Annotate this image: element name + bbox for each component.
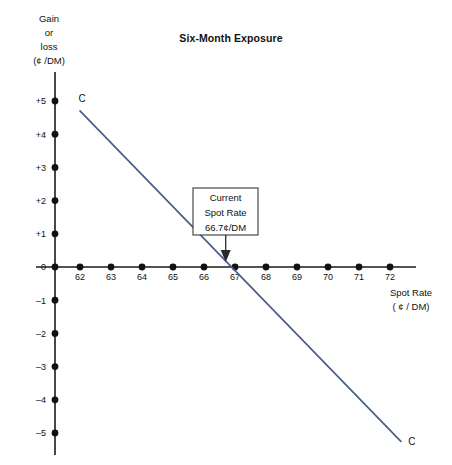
x-tick-dot <box>170 264 177 271</box>
x-tick-label: 68 <box>261 272 271 282</box>
x-tick-dot <box>325 264 332 271</box>
y-axis-title-line-1: Gain <box>39 13 59 24</box>
x-tick-label: 63 <box>106 272 116 282</box>
y-tick-dot <box>52 396 59 403</box>
y-tick-dot <box>52 131 59 138</box>
y-tick-dot <box>52 164 59 171</box>
annotation-line-1: Current <box>210 192 242 203</box>
annotation-current-spot-rate: Current Spot Rate 66.7¢/DM <box>193 188 258 262</box>
y-tick-label: 0 <box>41 262 46 272</box>
x-tick-dot <box>263 264 270 271</box>
curve-label-end: C <box>408 436 415 447</box>
y-tick-dot <box>52 430 59 437</box>
x-tick-dot <box>108 264 115 271</box>
y-tick-dot <box>52 363 59 370</box>
x-tick-label: 69 <box>292 272 302 282</box>
y-tick-label: –2 <box>36 329 46 339</box>
x-tick-dot <box>77 264 84 271</box>
x-tick-label: 66 <box>199 272 209 282</box>
y-tick-label: –1 <box>36 296 46 306</box>
y-tick-label: +4 <box>36 130 46 140</box>
x-tick-label: 64 <box>137 272 147 282</box>
annotation-arrow-icon <box>221 250 231 262</box>
y-tick-dot <box>52 264 59 271</box>
x-tick-label: 71 <box>354 272 364 282</box>
curve-label-start: C <box>78 93 85 104</box>
y-axis-title-line-3: loss <box>41 41 58 52</box>
x-tick-dot <box>139 264 146 271</box>
y-tick-dot <box>52 330 59 337</box>
y-tick-dot <box>52 98 59 105</box>
six-month-exposure-chart: Gain or loss (¢ /DM) Six-Month Exposure … <box>0 0 452 465</box>
x-axis-title-line-1: Spot Rate <box>390 287 432 298</box>
y-axis-title-line-4: (¢ /DM) <box>33 55 65 66</box>
x-tick-label: 70 <box>323 272 333 282</box>
x-tick-dot <box>294 264 301 271</box>
y-tick-label: +3 <box>36 163 46 173</box>
annotation-line-3: 66.7¢/DM <box>205 222 246 233</box>
y-tick-label: +2 <box>36 196 46 206</box>
x-tick-label: 72 <box>385 272 395 282</box>
y-tick-dot <box>52 197 59 204</box>
x-tick-label: 62 <box>75 272 85 282</box>
x-tick-label: 65 <box>168 272 178 282</box>
y-tick-dot <box>52 297 59 304</box>
y-axis-title: Gain or loss (¢ /DM) <box>33 13 65 66</box>
y-tick-label: +5 <box>36 96 46 106</box>
x-axis-title-line-2: ( ¢ / DM) <box>393 301 430 312</box>
x-tick-dot <box>201 264 208 271</box>
y-axis-title-line-2: or <box>45 27 53 38</box>
chart-title: Six-Month Exposure <box>179 32 282 44</box>
y-tick-label: –4 <box>36 395 46 405</box>
y-tick-label: –5 <box>36 428 46 438</box>
x-tick-dot <box>356 264 363 271</box>
x-axis-title: Spot Rate ( ¢ / DM) <box>390 287 432 312</box>
exposure-line-C <box>80 111 401 441</box>
annotation-line-2: Spot Rate <box>204 207 246 218</box>
chart-screenshot: Gain or loss (¢ /DM) Six-Month Exposure … <box>0 0 452 465</box>
y-tick-dot <box>52 230 59 237</box>
x-tick-dot <box>387 264 394 271</box>
y-tick-label: –3 <box>36 362 46 372</box>
y-tick-label: +1 <box>36 229 46 239</box>
